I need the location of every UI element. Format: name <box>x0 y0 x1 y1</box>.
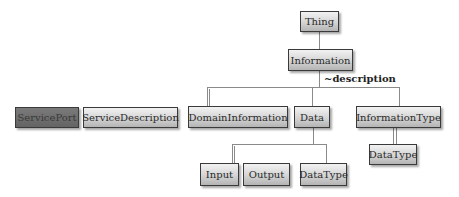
connector-informationtype <box>399 87 400 106</box>
node-service-description[interactable]: ServiceDescription <box>83 107 178 128</box>
connector-data-down <box>313 128 314 145</box>
node-input[interactable]: Input <box>200 163 239 186</box>
node-datatype-informationtype[interactable]: DataType <box>369 144 417 165</box>
connector-thing-information <box>319 32 320 49</box>
connector-input-b <box>234 146 235 163</box>
node-information[interactable]: Information <box>288 49 353 71</box>
node-domain-information[interactable]: DomainInformation <box>188 106 288 128</box>
edge-label-description: ~description <box>324 73 396 84</box>
node-output[interactable]: Output <box>243 163 290 186</box>
connector-input-a <box>232 144 233 163</box>
node-thing[interactable]: Thing <box>300 11 339 32</box>
node-information-type[interactable]: InformationType <box>356 106 441 128</box>
connector-horizontal-top <box>207 87 400 88</box>
connector-datatype <box>326 144 327 163</box>
node-data[interactable]: Data <box>294 106 330 128</box>
connector-informationtype-datatype-b <box>396 128 397 144</box>
connector-domaininformation-b <box>209 89 210 106</box>
connector-data <box>312 87 313 106</box>
connector-information-down <box>319 71 320 88</box>
connector-horizontal-bottom <box>232 144 327 145</box>
node-service-port[interactable]: ServicePort <box>15 107 79 128</box>
node-datatype-data[interactable]: DataType <box>300 163 347 186</box>
connector-informationtype-datatype-a <box>393 128 394 144</box>
connector-domaininformation-a <box>207 87 208 106</box>
